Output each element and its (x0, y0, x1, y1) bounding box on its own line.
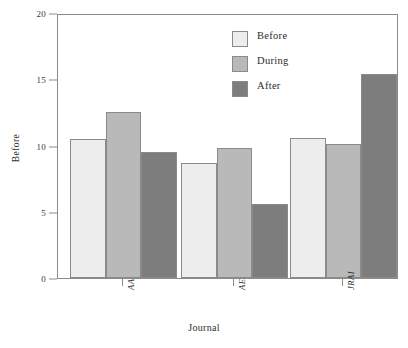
legend-label: Before (257, 30, 287, 41)
y-axis-title: Before (11, 118, 21, 178)
x-tick-mark (233, 279, 234, 286)
x-axis-title: Journal (0, 322, 408, 333)
x-tick-mark (342, 279, 343, 286)
bar (217, 148, 253, 278)
y-tick-label: 20 (36, 9, 46, 19)
legend-swatch-icon (232, 31, 248, 47)
x-tick-label: AA (126, 279, 136, 290)
plot-area (57, 14, 398, 279)
bar (290, 138, 326, 278)
legend-label: After (257, 80, 281, 91)
bar (326, 144, 362, 278)
y-tick-mark (49, 212, 57, 213)
y-tick-label: 10 (36, 142, 46, 152)
y-tick-label: 15 (36, 75, 46, 85)
bar (70, 139, 106, 278)
bar (181, 163, 217, 278)
legend-swatch-icon (232, 81, 248, 97)
bar-chart: 20151050 Before Journal BeforeDuringAfte… (0, 0, 408, 348)
y-tick-mark (49, 80, 57, 81)
y-axis: 20151050 (0, 0, 46, 348)
y-tick-mark (49, 279, 57, 280)
x-tick-label: AE (237, 279, 247, 290)
y-tick-mark (49, 146, 57, 147)
x-tick-mark (122, 279, 123, 286)
bar (361, 74, 397, 278)
bar (106, 112, 142, 278)
legend-swatch-icon (232, 56, 248, 72)
bar (252, 204, 288, 278)
y-tick-label: 5 (41, 208, 46, 218)
legend-label: During (257, 55, 289, 66)
y-tick-mark (49, 14, 57, 15)
y-tick-label: 0 (41, 274, 46, 284)
bar (141, 152, 177, 278)
x-tick-label: JRAI (346, 271, 356, 290)
